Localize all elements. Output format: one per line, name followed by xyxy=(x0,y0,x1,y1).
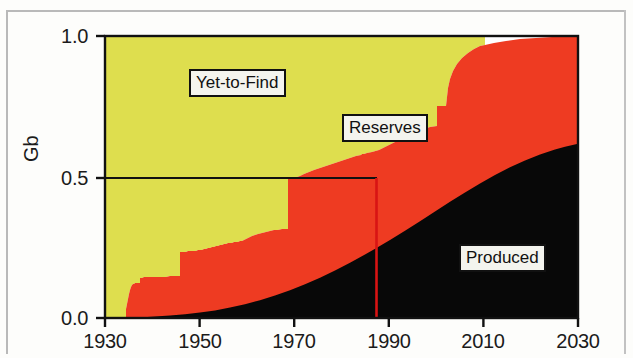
y-tick-label-0-5: 0.5 xyxy=(38,167,88,190)
annotation-yet-to-find: Yet-to-Find xyxy=(189,69,286,97)
x-tick-label-1990: 1990 xyxy=(367,330,410,353)
x-tick-label-1950: 1950 xyxy=(178,330,221,353)
area-chart: Gb 1.0 0.5 0.0 1930 1950 1970 1990 2010 … xyxy=(0,0,633,358)
x-tick-label-2010: 2010 xyxy=(461,330,504,353)
annotation-produced: Produced xyxy=(459,244,546,272)
y-tick-label-1-0: 1.0 xyxy=(38,25,88,48)
y-tick-label-0-0: 0.0 xyxy=(38,307,88,330)
annotation-reserves: Reserves xyxy=(342,114,428,142)
y-axis-ticks xyxy=(96,36,105,318)
y-axis-title: Gb xyxy=(20,135,43,162)
x-tick-label-1970: 1970 xyxy=(272,330,315,353)
x-tick-label-1930: 1930 xyxy=(83,330,126,353)
plot-canvas xyxy=(0,0,633,358)
figure-frame: Gb 1.0 0.5 0.0 1930 1950 1970 1990 2010 … xyxy=(0,0,633,358)
x-axis-ticks xyxy=(105,318,578,327)
x-tick-label-2030: 2030 xyxy=(556,330,599,353)
